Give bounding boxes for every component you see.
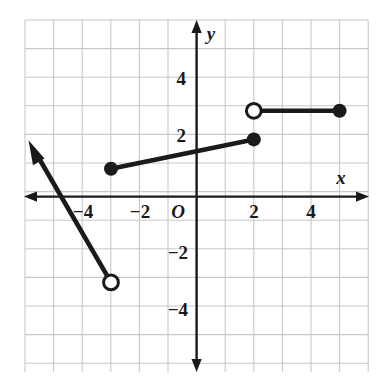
y-tick-label-2: 2 <box>177 125 187 146</box>
x-tick-label-2: 2 <box>249 201 259 222</box>
closed-endpoint-middle-right <box>247 132 261 146</box>
y-tick-label--4: −4 <box>168 299 189 320</box>
open-endpoint-ray <box>104 275 119 290</box>
y-axis-label: y <box>205 23 216 44</box>
x-tick-label-4: 4 <box>306 201 316 222</box>
x-axis-label: x <box>335 167 346 188</box>
graph-figure: −4 −2 2 4 4 2 −2 −4 O y x <box>0 0 385 388</box>
y-tick-label-4: 4 <box>177 68 187 89</box>
closed-endpoint-left <box>104 162 118 176</box>
coordinate-plane-svg: −4 −2 2 4 4 2 −2 −4 O y x <box>0 0 385 388</box>
open-endpoint-right-segment <box>246 103 261 118</box>
origin-label: O <box>171 201 185 222</box>
x-tick-label--2: −2 <box>130 201 150 222</box>
y-tick-label--2: −2 <box>168 242 188 263</box>
closed-endpoint-far-right <box>333 104 347 118</box>
